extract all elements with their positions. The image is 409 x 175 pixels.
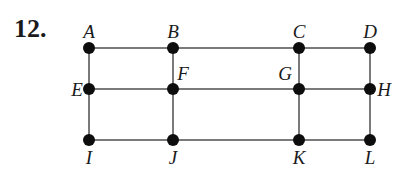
labels-group: ABCDEFGHIJKL — [70, 21, 392, 168]
vertex-label-a: A — [81, 21, 95, 42]
vertex-e — [83, 83, 95, 95]
vertex-f — [167, 83, 179, 95]
vertex-i — [83, 134, 95, 146]
vertex-label-k: K — [292, 147, 307, 168]
vertex-label-d: D — [362, 21, 377, 42]
vertex-c — [293, 42, 305, 54]
problem-number: 12. — [14, 14, 47, 43]
vertex-g — [293, 83, 305, 95]
vertex-label-h: H — [376, 79, 392, 100]
vertex-label-i: I — [85, 147, 94, 168]
diagram-canvas: 12. ABCDEFGHIJKL — [0, 0, 409, 175]
vertex-a — [83, 42, 95, 54]
vertex-label-f: F — [176, 63, 189, 84]
vertex-j — [167, 134, 179, 146]
vertex-l — [364, 134, 376, 146]
vertex-k — [293, 134, 305, 146]
vertex-label-j: J — [169, 147, 179, 168]
vertex-label-b: B — [167, 21, 179, 42]
graph-diagram: 12. ABCDEFGHIJKL — [0, 0, 409, 175]
vertex-b — [167, 42, 179, 54]
vertex-label-c: C — [293, 21, 306, 42]
vertex-label-g: G — [278, 63, 292, 84]
vertex-label-e: E — [70, 79, 83, 100]
nodes-group — [83, 42, 376, 146]
edges-group — [89, 48, 370, 140]
vertex-label-l: L — [364, 147, 376, 168]
vertex-d — [364, 42, 376, 54]
vertex-h — [364, 83, 376, 95]
